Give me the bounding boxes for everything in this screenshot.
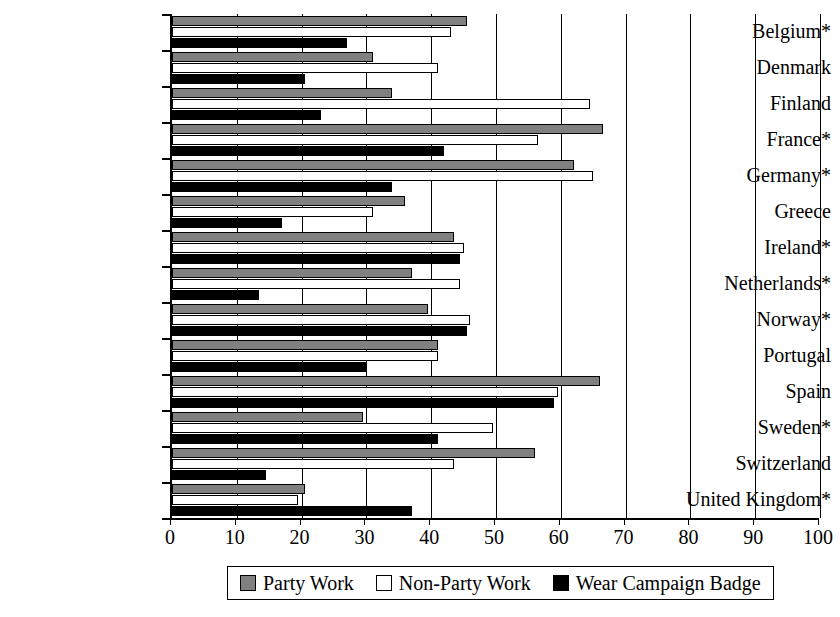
x-tick-label-60: 60 <box>529 526 589 549</box>
bar-belgium-party-work <box>172 16 467 26</box>
bar-sweden-non-party-work <box>172 423 493 433</box>
bar-norway-non-party-work <box>172 315 470 325</box>
bar-greece-party-work <box>172 196 405 206</box>
bar-switzerland-non-party-work <box>172 459 454 469</box>
gridline-50 <box>496 14 497 518</box>
bar-spain-wear-campaign-badge <box>172 398 554 408</box>
bar-france-wear-campaign-badge <box>172 146 444 156</box>
bar-denmark-wear-campaign-badge <box>172 74 305 84</box>
x-tick-100 <box>818 518 819 525</box>
bar-greece-non-party-work <box>172 207 373 217</box>
bar-finland-non-party-work <box>172 99 590 109</box>
x-tick-40 <box>429 518 430 525</box>
y-tick-11 <box>162 410 170 412</box>
legend-label-party-work: Party Work <box>263 573 354 593</box>
y-tick-10 <box>162 374 170 376</box>
bar-norway-party-work <box>172 304 428 314</box>
bar-ireland-non-party-work <box>172 243 464 253</box>
x-tick-label-40: 40 <box>399 526 459 549</box>
bar-switzerland-party-work <box>172 448 535 458</box>
legend-item-non-party-work: Non-Party Work <box>376 573 531 593</box>
bar-france-party-work <box>172 124 603 134</box>
y-tick-5 <box>162 194 170 196</box>
bar-belgium-non-party-work <box>172 27 451 37</box>
x-tick-label-0: 0 <box>140 526 200 549</box>
gridline-60 <box>561 14 562 518</box>
y-tick-6 <box>162 230 170 232</box>
plot-area <box>170 14 818 518</box>
legend-item-party-work: Party Work <box>240 573 354 593</box>
x-tick-label-50: 50 <box>464 526 524 549</box>
x-tick-10 <box>235 518 236 525</box>
bar-netherlands-non-party-work <box>172 279 460 289</box>
bar-sweden-party-work <box>172 412 363 422</box>
x-tick-label-70: 70 <box>594 526 654 549</box>
x-tick-60 <box>559 518 560 525</box>
bar-netherlands-party-work <box>172 268 412 278</box>
bar-ireland-wear-campaign-badge <box>172 254 460 264</box>
bar-greece-wear-campaign-badge <box>172 218 282 228</box>
x-tick-label-30: 30 <box>334 526 394 549</box>
y-tick-4 <box>162 158 170 160</box>
gridline-90 <box>755 14 756 518</box>
bar-portugal-wear-campaign-badge <box>172 362 366 372</box>
legend-swatch-non-party-work <box>376 575 392 591</box>
bar-switzerland-wear-campaign-badge <box>172 470 266 480</box>
x-tick-70 <box>624 518 625 525</box>
y-tick-8 <box>162 302 170 304</box>
bar-ireland-party-work <box>172 232 454 242</box>
bar-spain-non-party-work <box>172 387 558 397</box>
bar-chart: Belgium*DenmarkFinlandFrance*Germany*Gre… <box>0 0 840 617</box>
x-tick-label-90: 90 <box>723 526 783 549</box>
bar-portugal-non-party-work <box>172 351 438 361</box>
bar-germany-non-party-work <box>172 171 593 181</box>
bar-spain-party-work <box>172 376 600 386</box>
bar-france-non-party-work <box>172 135 538 145</box>
bar-denmark-non-party-work <box>172 63 438 73</box>
x-tick-label-10: 10 <box>205 526 265 549</box>
x-tick-label-20: 20 <box>270 526 330 549</box>
bar-united-kingdom-wear-campaign-badge <box>172 506 412 516</box>
bar-finland-party-work <box>172 88 392 98</box>
bar-denmark-party-work <box>172 52 373 62</box>
gridline-80 <box>690 14 691 518</box>
x-tick-80 <box>688 518 689 525</box>
y-tick-9 <box>162 338 170 340</box>
y-tick-13 <box>162 482 170 484</box>
bar-germany-wear-campaign-badge <box>172 182 392 192</box>
y-tick-0 <box>162 14 170 16</box>
y-tick-2 <box>162 86 170 88</box>
x-tick-90 <box>753 518 754 525</box>
x-tick-label-100: 100 <box>788 526 840 549</box>
y-tick-12 <box>162 446 170 448</box>
y-tick-7 <box>162 266 170 268</box>
bar-germany-party-work <box>172 160 574 170</box>
bar-portugal-party-work <box>172 340 438 350</box>
bar-united-kingdom-non-party-work <box>172 495 298 505</box>
legend-label-non-party-work: Non-Party Work <box>399 573 531 593</box>
gridline-100 <box>820 14 821 518</box>
legend-swatch-party-work <box>240 575 256 591</box>
bar-united-kingdom-party-work <box>172 484 305 494</box>
legend-swatch-wear-campaign-badge <box>553 575 569 591</box>
legend-label-wear-campaign-badge: Wear Campaign Badge <box>576 573 761 593</box>
x-tick-label-80: 80 <box>658 526 718 549</box>
bar-netherlands-wear-campaign-badge <box>172 290 259 300</box>
legend-item-wear-campaign-badge: Wear Campaign Badge <box>553 573 761 593</box>
bar-belgium-wear-campaign-badge <box>172 38 347 48</box>
x-tick-0 <box>170 518 171 525</box>
bar-finland-wear-campaign-badge <box>172 110 321 120</box>
x-tick-20 <box>300 518 301 525</box>
x-tick-50 <box>494 518 495 525</box>
y-tick-14 <box>162 518 170 520</box>
x-tick-30 <box>364 518 365 525</box>
chart-legend: Party Work Non-Party Work Wear Campaign … <box>227 566 774 600</box>
bar-sweden-wear-campaign-badge <box>172 434 438 444</box>
y-tick-1 <box>162 50 170 52</box>
y-tick-3 <box>162 122 170 124</box>
gridline-70 <box>626 14 627 518</box>
bar-norway-wear-campaign-badge <box>172 326 467 336</box>
